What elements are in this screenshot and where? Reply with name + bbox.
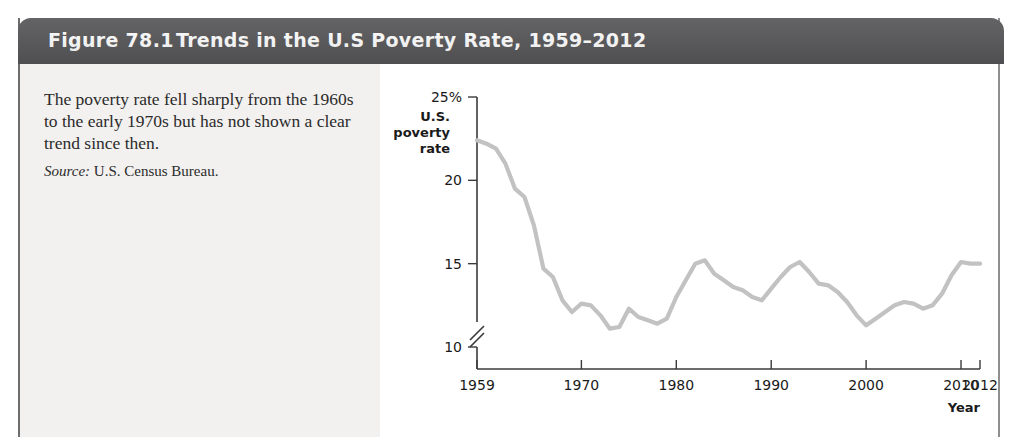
figure-card: Figure 78.1 Trends in the U.S Poverty Ra…	[18, 18, 1000, 437]
caption-panel: The poverty rate fell sharply from the 1…	[20, 64, 380, 437]
source-text: U.S. Census Bureau.	[94, 163, 219, 179]
x-axis-title: Year	[947, 400, 981, 415]
x-tick-label: 2012	[962, 377, 998, 393]
x-tick-label: 1970	[564, 377, 600, 393]
poverty-rate-line-chart: U.S. poverty rate 25%201510 195919701980…	[380, 64, 1002, 437]
figure-number: Figure 78.1	[48, 29, 174, 51]
figure-title: Trends in the U.S Poverty Rate, 1959–201…	[176, 29, 646, 51]
source-label: Source:	[44, 163, 90, 179]
x-tick-label: 1980	[658, 377, 694, 393]
axis-break-icon	[470, 326, 484, 347]
y-tick-label: 15	[444, 256, 462, 272]
y-tick-label: 20	[444, 172, 462, 188]
y-axis-title-line-3: rate	[420, 141, 450, 156]
y-axis-title-line-1: U.S.	[420, 109, 450, 124]
poverty-rate-line	[477, 140, 980, 328]
x-tick-label: 1959	[459, 377, 495, 393]
y-axis-title: U.S. poverty rate	[393, 109, 450, 156]
figure-body: The poverty rate fell sharply from the 1…	[20, 64, 998, 437]
chart-panel: U.S. poverty rate 25%201510 195919701980…	[380, 64, 998, 437]
x-axis-ticks: 1959197019801990200020102012	[459, 360, 998, 393]
x-tick-label: 1990	[753, 377, 789, 393]
y-tick-label: 10	[444, 339, 462, 355]
y-axis-title-line-2: poverty	[393, 125, 450, 140]
y-tick-label: 25%	[431, 89, 462, 105]
x-tick-label: 2000	[848, 377, 884, 393]
figure-caption: The poverty rate fell sharply from the 1…	[44, 88, 354, 155]
figure-header-bar: Figure 78.1 Trends in the U.S Poverty Ra…	[18, 18, 1004, 64]
figure-source: Source: U.S. Census Bureau.	[44, 163, 364, 180]
